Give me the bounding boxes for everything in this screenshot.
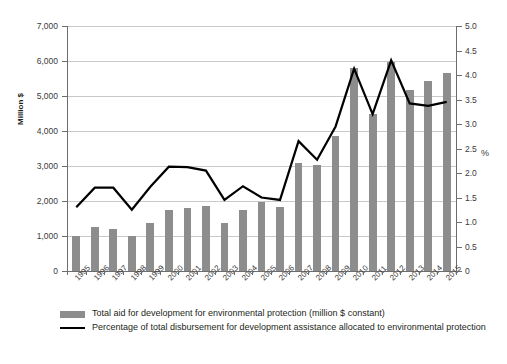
y-axis-left-tick-mark [62, 201, 68, 202]
y-axis-left-tick-label: 4,000 [18, 126, 58, 136]
y-axis-right-tick-mark [456, 26, 462, 27]
y-axis-right-tick-mark [456, 75, 462, 76]
x-axis-tick-mark [326, 271, 327, 275]
y-axis-left-tick-mark [62, 236, 68, 237]
x-axis-tick-mark [382, 271, 383, 275]
y-axis-right-tick-label: 3.0 [465, 119, 477, 129]
x-axis-tick-mark [308, 271, 309, 275]
x-axis-tick-mark [178, 271, 179, 275]
legend-item-line: Percentage of total disbursement for dev… [60, 322, 507, 334]
y-axis-left-tick-mark [62, 96, 68, 97]
line-path [76, 60, 446, 209]
legend-swatch-bar-icon [60, 311, 85, 318]
x-axis-tick-mark [234, 271, 235, 275]
chart-legend: Total aid for development for environmen… [60, 308, 507, 335]
x-axis-tick-mark [215, 271, 216, 275]
y-axis-right-tick-mark [456, 100, 462, 101]
legend-label-bar: Total aid for development for environmen… [92, 308, 385, 320]
x-axis-tick-mark [363, 271, 364, 275]
line-series [67, 26, 456, 271]
y-axis-left-tick-label: 7,000 [18, 21, 58, 31]
y-axis-left-tick-mark [62, 166, 68, 167]
x-axis-tick-mark [67, 271, 68, 275]
x-axis-tick-mark [197, 271, 198, 275]
y-axis-left-tick-mark [62, 61, 68, 62]
y-axis-right-tick-label: 4.0 [465, 70, 477, 80]
y-axis-right-tick-mark [456, 198, 462, 199]
y-axis-left-tick-mark [62, 131, 68, 132]
y-axis-right-tick-label: 3.5 [465, 95, 477, 105]
x-axis-tick-mark [456, 271, 457, 275]
x-axis-tick-mark [104, 271, 105, 275]
x-axis-tick-mark [160, 271, 161, 275]
y-axis-right-tick-mark [456, 149, 462, 150]
y-axis-right-tick-mark [456, 222, 462, 223]
x-axis-tick-mark [141, 271, 142, 275]
x-axis-tick-mark [437, 271, 438, 275]
x-axis-tick-mark [271, 271, 272, 275]
x-axis-tick-mark [252, 271, 253, 275]
y-axis-right-tick-label: 1.0 [465, 217, 477, 227]
y-axis-left-tick-label: 2,000 [18, 196, 58, 206]
y-axis-right-tick-label: 5.0 [465, 21, 477, 31]
y-axis-right-tick-mark [456, 124, 462, 125]
x-axis-ticks: 1995199619971998199920002001200220032004… [67, 271, 456, 311]
y-axis-right-title: % [481, 148, 489, 158]
y-axis-left-tick-label: 6,000 [18, 56, 58, 66]
y-axis-left-tick-label: 1,000 [18, 231, 58, 241]
chart-figure: 01,0002,0003,0004,0005,0006,0007,000 00.… [0, 0, 507, 364]
y-axis-right-tick-label: 1.5 [465, 193, 477, 203]
y-axis-right-tick-label: 2.0 [465, 168, 477, 178]
y-axis-left-tick-label: 0 [18, 266, 58, 276]
x-axis-tick-mark [86, 271, 87, 275]
x-axis-tick-mark [289, 271, 290, 275]
y-axis-right-tick-label: 0 [465, 266, 470, 276]
y-axis-right-tick-mark [456, 247, 462, 248]
y-axis-right-tick-label: 2.5 [465, 144, 477, 154]
y-axis-left [67, 26, 68, 271]
y-axis-right-tick-label: 4.5 [465, 46, 477, 56]
legend-item-bar: Total aid for development for environmen… [60, 308, 507, 320]
plot-wrapper: 01,0002,0003,0004,0005,0006,0007,000 00.… [0, 0, 507, 300]
y-axis-left-tick-mark [62, 26, 68, 27]
y-axis-right-tick-mark [456, 173, 462, 174]
y-axis-left-tick-label: 3,000 [18, 161, 58, 171]
legend-label-line: Percentage of total disbursement for dev… [92, 322, 486, 334]
legend-swatch-line-icon [60, 327, 85, 329]
x-axis-tick-mark [400, 271, 401, 275]
x-axis-tick-mark [123, 271, 124, 275]
x-axis-tick-mark [419, 271, 420, 275]
y-axis-right-tick-label: 0.5 [465, 242, 477, 252]
y-axis-right-tick-mark [456, 51, 462, 52]
y-axis-left-title: Million $ [16, 93, 25, 125]
x-axis-tick-mark [345, 271, 346, 275]
